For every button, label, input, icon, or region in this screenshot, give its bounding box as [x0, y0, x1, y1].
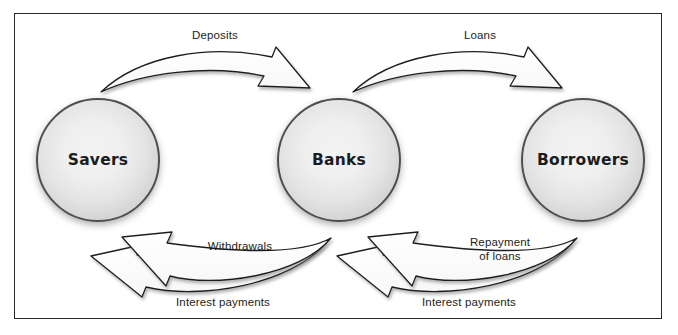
flow-label-interest-payments-left: Interest payments: [153, 296, 293, 310]
arrow-deposits: [101, 47, 310, 92]
flow-label-repayment-of-loans: Repayment of loans: [440, 236, 560, 263]
node-savers[interactable]: Savers: [36, 98, 160, 222]
arrow-loans: [353, 47, 562, 92]
node-borrowers-label: Borrowers: [521, 151, 645, 169]
node-banks-label: Banks: [277, 151, 401, 169]
diagram-canvas: Savers Banks Borrowers Deposits Loans Wi…: [0, 0, 678, 335]
node-borrowers[interactable]: Borrowers: [521, 98, 645, 222]
flow-label-withdrawals: Withdrawals: [170, 240, 310, 254]
node-banks[interactable]: Banks: [277, 98, 401, 222]
flow-label-interest-payments-right: Interest payments: [399, 296, 539, 310]
node-savers-label: Savers: [36, 151, 160, 169]
flow-label-loans: Loans: [420, 29, 540, 43]
flow-label-deposits: Deposits: [155, 29, 275, 43]
